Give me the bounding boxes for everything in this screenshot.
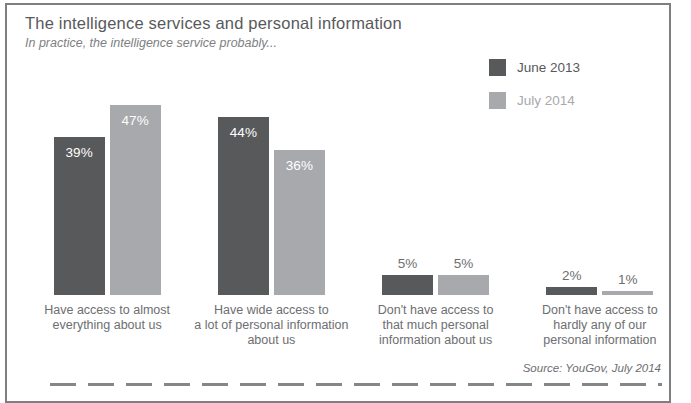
- legend-item-june-2013: June 2013: [489, 59, 580, 76]
- bar-pair: 2%1%: [518, 87, 682, 295]
- bar-july-2014: 47%: [110, 105, 161, 295]
- cropped-content-artifact: [50, 383, 662, 386]
- june-2013-swatch-icon: [489, 59, 506, 76]
- bar-pair: 39%47%: [25, 87, 189, 295]
- bar-chart: 39%47%Have access to almost everything a…: [25, 87, 682, 348]
- value-label: 1%: [602, 272, 653, 287]
- value-label: 39%: [54, 145, 105, 160]
- chart-title: The intelligence services and personal i…: [25, 14, 402, 33]
- chart-subtitle: In practice, the intelligence service pr…: [25, 36, 277, 50]
- bar-pair: 44%36%: [189, 87, 353, 295]
- bar-group-1: 39%47%Have access to almost everything a…: [25, 87, 189, 348]
- bar-pair: 5%5%: [354, 87, 518, 295]
- chart-card: The intelligence services and personal i…: [5, 3, 671, 403]
- bar-july-2014: 5%: [438, 275, 489, 295]
- bar-june-2013: 39%: [54, 137, 105, 295]
- category-label: Don't have access to hardly any of our p…: [518, 303, 682, 348]
- bar-group-2: 44%36%Have wide access to a lot of perso…: [189, 87, 353, 348]
- bar-group-4: 2%1%Don't have access to hardly any of o…: [518, 87, 682, 348]
- value-label: 2%: [546, 268, 597, 283]
- bar-group-3: 5%5%Don't have access to that much perso…: [354, 87, 518, 348]
- legend-label-june-2013: June 2013: [517, 60, 580, 75]
- value-label: 5%: [382, 256, 433, 271]
- bar-july-2014: 1%: [602, 291, 653, 295]
- category-label: Have wide access to a lot of personal in…: [189, 303, 353, 348]
- source-note: Source: YouGov, July 2014: [523, 362, 661, 374]
- value-label: 47%: [110, 113, 161, 128]
- bar-july-2014: 36%: [274, 150, 325, 295]
- bar-june-2013: 5%: [382, 275, 433, 295]
- category-label: Don't have access to that much personal …: [354, 303, 518, 348]
- category-label: Have access to almost everything about u…: [25, 303, 189, 333]
- value-label: 5%: [438, 256, 489, 271]
- bar-june-2013: 2%: [546, 287, 597, 295]
- value-label: 36%: [274, 158, 325, 173]
- value-label: 44%: [218, 125, 269, 140]
- bar-june-2013: 44%: [218, 117, 269, 295]
